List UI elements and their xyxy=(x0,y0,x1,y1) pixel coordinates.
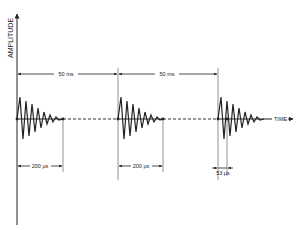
cycle-dimension: 53 μs xyxy=(212,168,233,176)
burst-duration-dimension-2: 200 μs xyxy=(119,163,162,169)
burst-duration-label-1: 200 μs xyxy=(32,163,49,169)
y-axis-label: AMPLITUDE xyxy=(7,18,14,58)
cycle-label: 53 μs xyxy=(216,170,230,176)
burst-duration-dimension-1: 200 μs xyxy=(18,163,62,169)
burst-duration-label-2: 200 μs xyxy=(133,163,150,169)
period-label-2: 50 ms xyxy=(160,71,175,77)
x-axis-label: TIME xyxy=(274,116,287,122)
period-dimension-1: 50 ms xyxy=(18,71,117,77)
burst-3 xyxy=(217,97,264,139)
period-label-1: 50 ms xyxy=(59,71,74,77)
burst-1 xyxy=(16,97,65,139)
pulse-timing-diagram: AMPLITUDE TIME 50 ms xyxy=(0,0,303,230)
period-dimension-2: 50 ms xyxy=(119,71,217,77)
burst-2 xyxy=(117,97,165,139)
